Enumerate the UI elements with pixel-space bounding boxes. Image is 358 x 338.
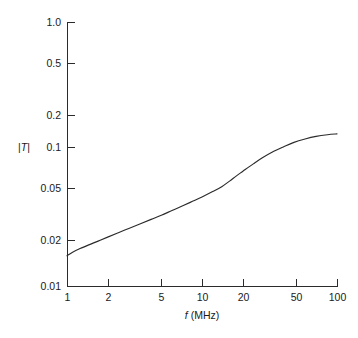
y-tick-label: 1.0 — [46, 16, 61, 28]
y-tick-label: 0.02 — [41, 234, 62, 246]
y-tick-label: 0.2 — [46, 109, 61, 121]
y-tick-label: 0.5 — [46, 57, 61, 69]
y-axis-title-bar-right: | — [27, 141, 30, 153]
y-tick-label: 0.1 — [46, 141, 61, 153]
y-tickmarks — [67, 23, 75, 287]
figure-container: 1.0 0.5 0.2 0.1 0.05 0.02 0.01 1 2 5 10 … — [0, 0, 358, 338]
x-tick-label: 2 — [106, 291, 112, 303]
y-tick-labels: 1.0 0.5 0.2 0.1 0.05 0.02 0.01 — [41, 16, 62, 292]
transfer-magnitude-curve — [67, 134, 337, 256]
y-tick-label: 0.05 — [41, 182, 62, 194]
x-axis-title: f(MHz) — [185, 309, 220, 321]
x-tick-label: 50 — [291, 291, 303, 303]
x-tick-label: 10 — [197, 291, 209, 303]
y-axis-title: |T| — [18, 141, 30, 153]
x-tickmarks — [68, 279, 338, 287]
y-tick-label: 0.01 — [41, 280, 62, 292]
x-tick-labels: 1 2 5 10 20 50 100 — [65, 291, 347, 303]
log-log-plot: 1.0 0.5 0.2 0.1 0.05 0.02 0.01 1 2 5 10 … — [0, 0, 358, 338]
x-axis-title-symbol: f — [185, 309, 189, 321]
x-tick-label: 1 — [65, 291, 71, 303]
x-tick-label: 20 — [238, 291, 250, 303]
x-axis-title-units: (MHz) — [191, 309, 220, 321]
x-tick-label: 100 — [329, 291, 347, 303]
x-tick-label: 5 — [159, 291, 165, 303]
